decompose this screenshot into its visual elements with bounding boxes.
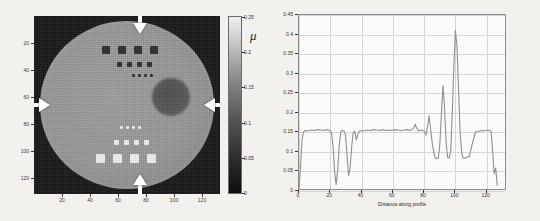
figure-container: 20 40 60 80 100 120 20 40 60 80 100 120 [0,0,540,221]
plot-x-tick-label: 0 [297,192,300,198]
phantom-y-tick-label: 60 [20,94,29,100]
plot-y-tick-label: 0.1 [270,148,293,154]
dark-insert [150,74,153,77]
dark-insert [118,46,126,54]
plot-y-tickmark [295,14,298,15]
colorbar-tick-label: 0 [244,190,247,196]
plot-x-tick-label: 100 [450,192,458,198]
profile-line-series [299,15,505,189]
plot-y-tickmark [295,53,298,54]
dark-insert [102,46,110,54]
dark-insert [138,74,141,77]
bright-insert [144,140,149,145]
plot-x-tick-label: 40 [358,192,364,198]
plot-x-tick-label: 80 [420,192,426,198]
phantom-x-tick-label: 20 [59,197,65,203]
colorbar-tick-label: 0.25 [244,14,254,20]
profile-arrow-top-icon [133,23,147,34]
plot-y-tickmark [295,34,298,35]
plot-y-tickmark [295,92,298,93]
dark-insert [137,62,142,67]
bright-insert [138,126,141,129]
bright-insert [126,126,129,129]
plot-y-tickmark [295,190,298,191]
dark-insert [127,62,132,67]
profile-plot-panel: 020406080100120 00.050.10.150.20.250.30.… [268,0,540,221]
mu-axis-label: μ [250,28,257,44]
phantom-x-tick-label: 80 [143,197,149,203]
plot-y-tick-label: 0.45 [270,11,293,17]
bright-insert [113,154,122,163]
profile-arrow-left-icon [39,98,50,112]
colorbar: 0.25 0.2 0.15 0.1 0.05 0 [228,16,242,194]
bright-insert [130,154,139,163]
plot-x-tick-label: 20 [326,192,332,198]
plot-x-tick-label: 120 [481,192,489,198]
dark-insert [147,62,152,67]
bright-insert [134,140,139,145]
lesion-region [152,78,190,116]
dark-insert [117,62,122,67]
bright-insert [124,140,129,145]
plot-x-axis-label: Distance along profile [378,201,426,207]
plot-y-tick-label: 0.25 [270,89,293,95]
bright-insert [147,154,156,163]
profile-arrow-bottom-stem [138,184,142,194]
plot-y-tick-label: 0.15 [270,128,293,134]
plot-x-tick-label: 60 [389,192,395,198]
plot-y-tick-label: 0 [270,187,293,193]
bright-insert [96,154,105,163]
colorbar-tick-label: 0.15 [244,84,254,90]
colorbar-gradient [228,16,242,194]
phantom-y-tick-label: 40 [20,67,29,73]
phantom-x-tick-label: 100 [170,197,178,203]
bright-insert [120,126,123,129]
plot-y-tickmark [295,73,298,74]
phantom-panel: 20 40 60 80 100 120 20 40 60 80 100 120 [0,0,268,221]
bright-insert [132,126,135,129]
dark-insert [134,46,142,54]
plot-y-tick-label: 0.4 [270,31,293,37]
colorbar-tick-label: 0.2 [244,49,251,55]
plot-y-tickmark [295,170,298,171]
phantom-y-tick-label: 120 [20,175,29,181]
phantom-x-tick-label: 40 [87,197,93,203]
phantom-x-tick-label: 60 [115,197,121,203]
dark-insert [132,74,135,77]
plot-y-tickmark [295,112,298,113]
plot-y-tickmark [295,151,298,152]
dark-insert [150,46,158,54]
dark-insert [144,74,147,77]
phantom-x-tick-label: 120 [198,197,206,203]
phantom-y-tick-label: 100 [20,148,29,154]
plot-y-tick-label: 0.05 [270,167,293,173]
plot-y-tick-label: 0.2 [270,109,293,115]
phantom-y-tick-label: 20 [20,40,29,46]
plot-y-tick-label: 0.3 [270,70,293,76]
bright-insert [114,140,119,145]
plot-y-tickmark [295,131,298,132]
profile-arrow-right-icon [204,98,215,112]
colorbar-tick-label: 0.1 [244,120,251,126]
phantom-y-tick-label: 80 [20,121,29,127]
plot-y-tick-label: 0.35 [270,50,293,56]
profile-plot-axes [298,14,506,190]
phantom-axes [34,16,220,194]
colorbar-tick-label: 0.05 [244,155,254,161]
profile-arrow-bottom-icon [133,174,147,185]
